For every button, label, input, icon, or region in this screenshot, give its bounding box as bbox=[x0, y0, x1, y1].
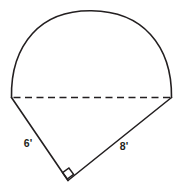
triangle-leg-left bbox=[12, 98, 69, 181]
label-leg-left: 6' bbox=[24, 137, 32, 149]
semicircle-arc bbox=[11, 11, 171, 98]
label-leg-right: 8' bbox=[120, 140, 128, 152]
geometry-figure: 6' 8' bbox=[0, 0, 182, 192]
triangle-leg-right bbox=[68, 98, 172, 181]
figure-canvas: 6' 8' bbox=[0, 0, 182, 192]
